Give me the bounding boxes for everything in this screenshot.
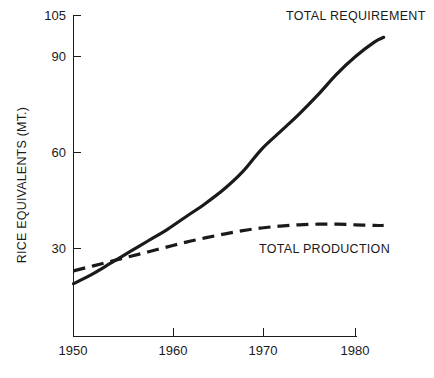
line-chart: 105 90 60 30 1950 1960 1970 1980 RICE EQ… xyxy=(0,0,434,378)
y-tick-label-60: 60 xyxy=(52,145,66,160)
chart-container: 105 90 60 30 1950 1960 1970 1980 RICE EQ… xyxy=(0,0,434,378)
total-production-label: TOTAL PRODUCTION xyxy=(259,242,390,256)
x-tick-label-1950: 1950 xyxy=(59,343,88,358)
x-tick-label-1960: 1960 xyxy=(159,343,188,358)
x-tick-label-1980: 1980 xyxy=(341,343,370,358)
y-tick-label-30: 30 xyxy=(52,241,66,256)
y-tick-label-90: 90 xyxy=(52,49,66,64)
y-axis-title: RICE EQUIVALENTS (MT.) xyxy=(15,107,29,263)
total-requirement-label: TOTAL REQUIREMENT xyxy=(286,9,426,23)
y-tick-label-105: 105 xyxy=(44,8,66,23)
x-tick-label-1970: 1970 xyxy=(249,343,278,358)
